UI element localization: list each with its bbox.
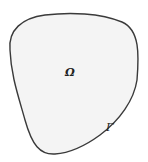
domain-diagram: Ω Γ [0, 0, 148, 162]
domain-region-boundary [10, 13, 138, 154]
boundary-label-gamma: Γ [105, 121, 114, 134]
region-label-omega: Ω [64, 66, 75, 79]
